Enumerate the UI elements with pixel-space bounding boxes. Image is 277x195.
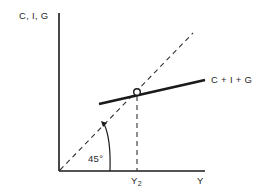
angle-label: 45° (88, 153, 103, 164)
angle-arc (104, 124, 110, 171)
diagram-canvas (0, 0, 277, 195)
x-axis-label: Y (197, 175, 204, 186)
equilibrium-point (134, 89, 141, 96)
aggregate-demand-label: C + I + G (211, 74, 252, 85)
y-axis-label: C, I, G (19, 10, 49, 21)
aggregate-demand-line (99, 80, 205, 104)
equilibrium-income-label: Y2 (131, 175, 142, 187)
equilibrium-income-subscript: 2 (138, 180, 142, 187)
equilibrium-income-letter: Y (131, 175, 138, 186)
forty-five-degree-line (60, 33, 193, 170)
